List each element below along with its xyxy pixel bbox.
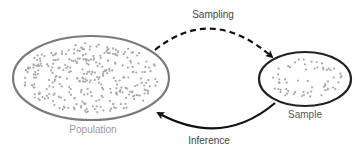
sampling-label: Sampling <box>192 9 234 20</box>
population-node <box>13 36 169 120</box>
inference-label: Inference <box>188 135 230 146</box>
sampling-arrow <box>155 29 272 57</box>
population-label: Population <box>69 124 116 135</box>
sample-label: Sample <box>288 109 322 120</box>
sample-ellipse <box>259 52 351 106</box>
diagram-canvas <box>0 0 355 151</box>
inference-arrow <box>158 103 275 128</box>
sample-node <box>259 52 351 106</box>
